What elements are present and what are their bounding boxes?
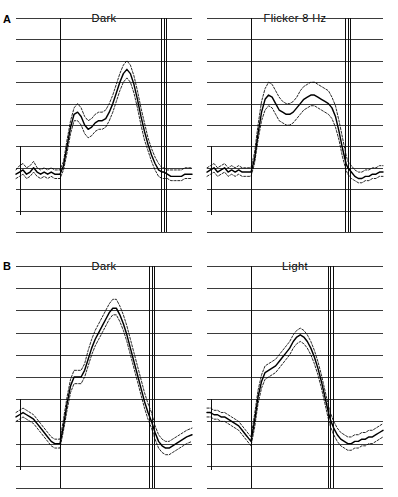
gridline-group <box>207 19 383 233</box>
plot-b-left <box>16 266 192 488</box>
panel-b-right: Light <box>207 250 383 497</box>
trace-upper-confidence-band <box>207 82 383 172</box>
trace-lower-confidence-band <box>207 341 383 450</box>
gridline-group <box>16 267 192 489</box>
panel-a-right: Flicker 8 Hz <box>207 0 383 250</box>
trace-upper-confidence-band <box>207 328 383 437</box>
gridline-group <box>207 267 383 489</box>
gridline-group <box>16 19 192 233</box>
trace-mean <box>207 95 383 178</box>
trace-lower-confidence-band <box>16 78 192 181</box>
chart-svg <box>207 266 383 488</box>
figure-root: A Dark Flicker 8 Hz B Dark Light <box>0 0 398 497</box>
panel-b-left: Dark <box>16 250 192 497</box>
trace-mean <box>207 335 383 444</box>
trace-upper-confidence-band <box>16 61 192 170</box>
trace-lower-confidence-band <box>16 315 192 455</box>
panel-row-a: A Dark Flicker 8 Hz <box>0 0 398 250</box>
panel-letter-b: B <box>3 261 11 272</box>
trace-mean <box>16 69 192 176</box>
chart-svg <box>207 18 383 232</box>
panel-a-left: Dark <box>16 0 192 250</box>
chart-svg <box>16 18 192 232</box>
trace-upper-confidence-band <box>16 299 192 441</box>
chart-svg <box>16 266 192 488</box>
plot-b-right <box>207 266 383 488</box>
panel-row-b: B Dark Light <box>0 250 398 497</box>
plot-a-left <box>16 18 192 232</box>
panel-letter-a: A <box>3 14 11 25</box>
plot-a-right <box>207 18 383 232</box>
